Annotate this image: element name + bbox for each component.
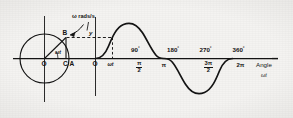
tick-degrees-value-0: 90 xyxy=(131,46,138,53)
phasor-radius-OB xyxy=(45,38,67,59)
x-axis-subtitle: ωt xyxy=(261,73,267,78)
x-axis-title: Angle xyxy=(256,62,272,68)
wave-start-angle-label-wt: ωt xyxy=(108,62,114,67)
tick-degrees-value-3: 360 xyxy=(233,46,243,53)
wave-origin-label: O xyxy=(93,61,98,68)
tick-label-radians-3: 2π xyxy=(237,62,245,68)
tick-label-degrees-0: 90° xyxy=(131,46,140,53)
tick-label-degrees-2: 270° xyxy=(200,46,212,53)
tick-label-radians-2: 3π 2 xyxy=(204,61,214,74)
degree-symbol-icon-0: ° xyxy=(138,45,140,50)
circle-center-label: O xyxy=(42,61,47,68)
tick-degrees-value-1: 180 xyxy=(167,46,177,53)
rotation-arrow-head xyxy=(70,32,75,37)
degree-symbol-icon-2: ° xyxy=(210,45,212,50)
circle-axis-point-label-a: A xyxy=(70,61,75,68)
sine-wave-generation-diagram xyxy=(0,0,293,118)
tick-label-degrees-1: 180° xyxy=(167,46,179,53)
angular-velocity-label: ω rads/s xyxy=(72,14,95,20)
tick-degrees-value-2: 270 xyxy=(200,46,210,53)
degree-symbol-icon-3: ° xyxy=(243,45,245,50)
degree-symbol-icon-1: ° xyxy=(177,45,179,50)
projection-foot-label-c: C xyxy=(63,61,68,68)
rotation-arrow-curve xyxy=(71,25,84,35)
tick-radians-denominator-2: 2 xyxy=(204,68,214,74)
phasor-tip-label-b: B xyxy=(63,30,68,37)
figure-canvas: O B C A ωt ω rads/s y O ωt 90° π 2 180° … xyxy=(0,0,293,118)
tick-radians-denominator-0: 2 xyxy=(136,68,142,74)
tick-label-radians-1: π xyxy=(162,62,167,68)
phasor-angle-label-wt: ωt xyxy=(55,50,61,55)
tick-label-degrees-3: 360° xyxy=(233,46,245,53)
vertical-component-label-y: y xyxy=(89,30,92,36)
tick-label-radians-0: π 2 xyxy=(136,61,142,74)
